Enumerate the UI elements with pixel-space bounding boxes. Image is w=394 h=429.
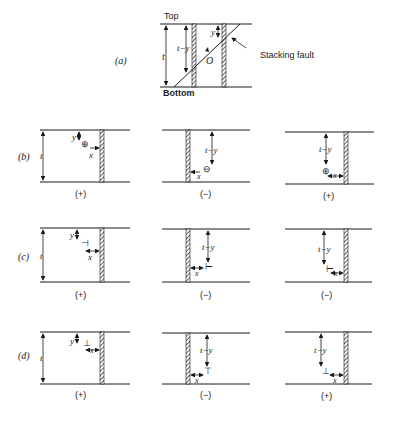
- row-d: (d) t y ⊥ x (+) t−y ⊤ x (−): [18, 332, 372, 401]
- fault-strip: [100, 332, 104, 384]
- depth-label: t−y: [200, 345, 213, 355]
- cell-c2: t−y ⊢ x (−): [162, 229, 250, 300]
- x-label: x: [332, 171, 337, 180]
- depth-label: t−y: [314, 345, 327, 355]
- cell-d1: t y ⊥ x (+): [40, 332, 130, 400]
- sign-label: (+): [75, 290, 86, 300]
- cell-c3: t−y ⊢ x (−): [285, 229, 372, 300]
- x-label: x: [89, 346, 94, 355]
- dislocation-symbol-icon: ⊢: [205, 262, 213, 272]
- dislocation-stacking-fault-diagram: (a) Top Bottom t t−y y O Stacking fault …: [0, 0, 394, 429]
- fault-strip: [100, 228, 104, 282]
- x-label: x: [87, 252, 92, 262]
- panel-a-label: (a): [115, 55, 127, 67]
- row-b: (b) t y ⊕ x (+) t−y ⊖ x (−): [18, 130, 374, 201]
- dislocation-symbol-icon: ⊣: [81, 238, 89, 248]
- cell-b1: t y ⊕ x (+): [40, 130, 130, 199]
- depth-label: y: [69, 230, 74, 240]
- direction-arrow-icon: [205, 47, 209, 52]
- depth-label: t−y: [202, 242, 215, 252]
- depth-label: t−y: [319, 144, 332, 154]
- fault-strip: [100, 130, 104, 182]
- dislocation-positive-icon: ⊕: [322, 166, 330, 176]
- thickness-label: t: [40, 251, 43, 261]
- bottom-label: Bottom: [163, 88, 195, 98]
- fault-strip-right: [222, 24, 226, 87]
- dislocation-symbol-icon: ⊥: [322, 366, 330, 376]
- depth-label: y: [71, 132, 76, 142]
- fault-strip: [186, 333, 190, 384]
- depth-label: t−y: [177, 43, 190, 53]
- panel-a: (a) Top Bottom t t−y y O Stacking fault: [115, 11, 315, 98]
- depth-label: y: [69, 336, 74, 346]
- fault-strip: [186, 130, 190, 182]
- fault-strip: [186, 229, 190, 282]
- thickness-label: t: [40, 353, 43, 363]
- dislocation-positive-icon: ⊕: [81, 139, 89, 149]
- thickness-label: t: [40, 151, 43, 161]
- row-label: (d): [18, 350, 30, 362]
- cell-d3: t−y ⊥ x (+): [285, 332, 372, 401]
- thickness-label: t: [162, 51, 165, 62]
- top-label: Top: [164, 11, 179, 21]
- depth-label: t−y: [205, 145, 218, 155]
- x-label: x: [333, 269, 338, 278]
- origin-label: O: [206, 55, 213, 66]
- sign-label: (+): [321, 391, 332, 401]
- cell-d2: t−y ⊤ x (−): [162, 333, 250, 400]
- dislocation-symbol-icon: ⊢: [326, 264, 334, 274]
- dislocation-negative-icon: ⊖: [203, 164, 211, 174]
- sign-label: (+): [323, 191, 334, 201]
- cell-b3: t−y ⊕ x (+): [285, 132, 374, 201]
- fault-strip-left: [192, 24, 196, 87]
- x-label: x: [88, 150, 93, 160]
- cell-c1: t y ⊣ x (+): [40, 228, 130, 300]
- depth-label: t−y: [318, 244, 331, 254]
- sign-label: (+): [75, 189, 86, 199]
- fault-strip: [344, 229, 348, 282]
- sign-label: (−): [200, 189, 211, 199]
- row-label: (c): [18, 251, 30, 263]
- sign-label: (−): [200, 390, 211, 400]
- sign-label: (−): [200, 290, 211, 300]
- sign-label: (−): [321, 290, 332, 300]
- row-label: (b): [18, 151, 30, 163]
- y-label: y: [210, 27, 215, 37]
- fault-strip: [344, 132, 348, 184]
- row-c: (c) t y ⊣ x (+) t−y ⊢ x (−): [18, 228, 372, 300]
- x-label: x: [194, 376, 199, 385]
- dislocation-symbol-icon: ⊤: [204, 366, 212, 376]
- fault-strip: [344, 332, 348, 384]
- stacking-fault-label: Stacking fault: [260, 50, 315, 60]
- x-label: x: [332, 376, 337, 385]
- sign-label: (+): [75, 390, 86, 400]
- annotation-pointer: [232, 38, 246, 48]
- cell-b2: t−y ⊖ x (−): [162, 130, 250, 199]
- x-label: x: [194, 269, 199, 278]
- x-label: x: [196, 172, 201, 181]
